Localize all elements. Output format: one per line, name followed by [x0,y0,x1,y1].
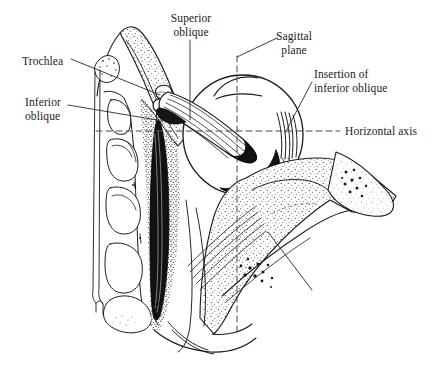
label-horizontal-axis: Horizontal axis [345,125,417,139]
palate-outline [154,324,256,352]
anatomy-figure: Trochlea Inferior oblique Superior obliq… [0,0,440,370]
anatomy-illustration [0,0,440,370]
label-inferior-oblique: Inferior oblique [25,96,61,123]
label-superior-oblique: Superior oblique [155,12,227,39]
nasal-septum [93,70,103,314]
label-sagittal-plane: Sagittal plane [262,30,326,57]
frontal-sinus-cell [95,56,120,83]
zygomatic-process [328,152,393,216]
label-trochlea: Trochlea [22,55,63,69]
label-insertion-inferior-oblique: Insertion of inferior oblique [314,68,387,95]
